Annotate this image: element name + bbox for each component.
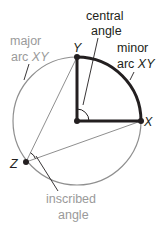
label-major-arc-2: arc XY bbox=[11, 50, 50, 64]
circle-arcs-angles-diagram: Y X Z central angle minor arc XY major a… bbox=[0, 0, 163, 228]
leader-central-angle bbox=[83, 38, 98, 105]
label-central-angle-1: central bbox=[86, 9, 124, 23]
label-minor-arc-2: arc XY bbox=[117, 57, 156, 71]
point-z bbox=[23, 159, 29, 165]
point-center bbox=[74, 118, 80, 124]
label-minor-arc-1: minor bbox=[117, 41, 148, 55]
label-minor-arc-prefix: arc bbox=[117, 57, 138, 71]
label-inscribed-angle-2: angle bbox=[58, 208, 89, 222]
leader-minor-arc bbox=[130, 72, 134, 80]
label-central-angle-2: angle bbox=[91, 24, 122, 38]
label-major-arc-prefix: arc bbox=[11, 50, 32, 64]
leader-inscribed-angle bbox=[36, 156, 58, 191]
label-major-arc-1: major bbox=[10, 34, 41, 48]
inscribed-angle-marker bbox=[31, 153, 36, 159]
label-point-y: Y bbox=[73, 41, 83, 55]
label-point-z: Z bbox=[9, 157, 18, 171]
label-inscribed-angle-1: inscribed bbox=[46, 192, 96, 206]
label-point-x: X bbox=[143, 115, 153, 129]
leader-major-arc bbox=[24, 64, 29, 80]
label-major-arc-name: XY bbox=[31, 50, 50, 64]
label-minor-arc-name: XY bbox=[137, 57, 156, 71]
